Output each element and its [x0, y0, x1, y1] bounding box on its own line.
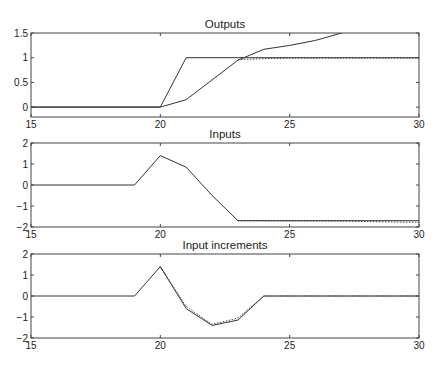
y-tick-label: 0 [22, 102, 28, 113]
y-tick-label: −1 [17, 312, 29, 323]
series-group [31, 156, 419, 223]
series-group [31, 28, 419, 107]
x-tick-label: 20 [155, 119, 167, 130]
x-tick-label: 30 [413, 119, 425, 130]
x-tick-label: 15 [25, 119, 37, 130]
series-output [31, 28, 367, 107]
y-tick-label: 2 [22, 249, 28, 260]
y-tick-label: 1 [22, 52, 28, 63]
subplot-title: Input increments [182, 239, 267, 251]
y-tick-label: 1 [22, 159, 28, 170]
subplot-1: Outputs1520253000.511.5 [14, 18, 425, 130]
y-tick-label: 2 [22, 138, 28, 149]
y-tick-label: 0.5 [14, 77, 28, 88]
y-tick-label: 0 [22, 291, 28, 302]
x-tick-label: 25 [284, 229, 296, 240]
y-tick-label: 0 [22, 180, 28, 191]
x-tick-label: 30 [413, 340, 425, 351]
y-tick-label: 1.5 [14, 28, 28, 39]
subplot-title: Inputs [209, 128, 241, 140]
x-tick-label: 25 [284, 119, 296, 130]
series-group [31, 267, 419, 326]
y-tick-label: −2 [17, 333, 29, 344]
subplot-2: Inputs15202530−2−1012 [17, 128, 425, 240]
x-tick-label: 20 [155, 229, 167, 240]
x-tick-label: 20 [155, 340, 167, 351]
series-predicted [238, 58, 419, 60]
series-input [31, 156, 419, 221]
figure: Outputs1520253000.511.5Inputs15202530−2−… [0, 0, 442, 372]
series-increment [31, 267, 419, 326]
x-tick-label: 30 [413, 229, 425, 240]
subplot-3: Input increments15202530−2−1012 [17, 239, 425, 351]
y-tick-label: −1 [17, 201, 29, 212]
subplot-title: Outputs [205, 18, 246, 30]
series-reference [31, 58, 419, 107]
y-tick-label: 1 [22, 270, 28, 281]
axes-box [31, 33, 419, 117]
x-tick-label: 25 [284, 340, 296, 351]
y-tick-label: −2 [17, 222, 29, 233]
